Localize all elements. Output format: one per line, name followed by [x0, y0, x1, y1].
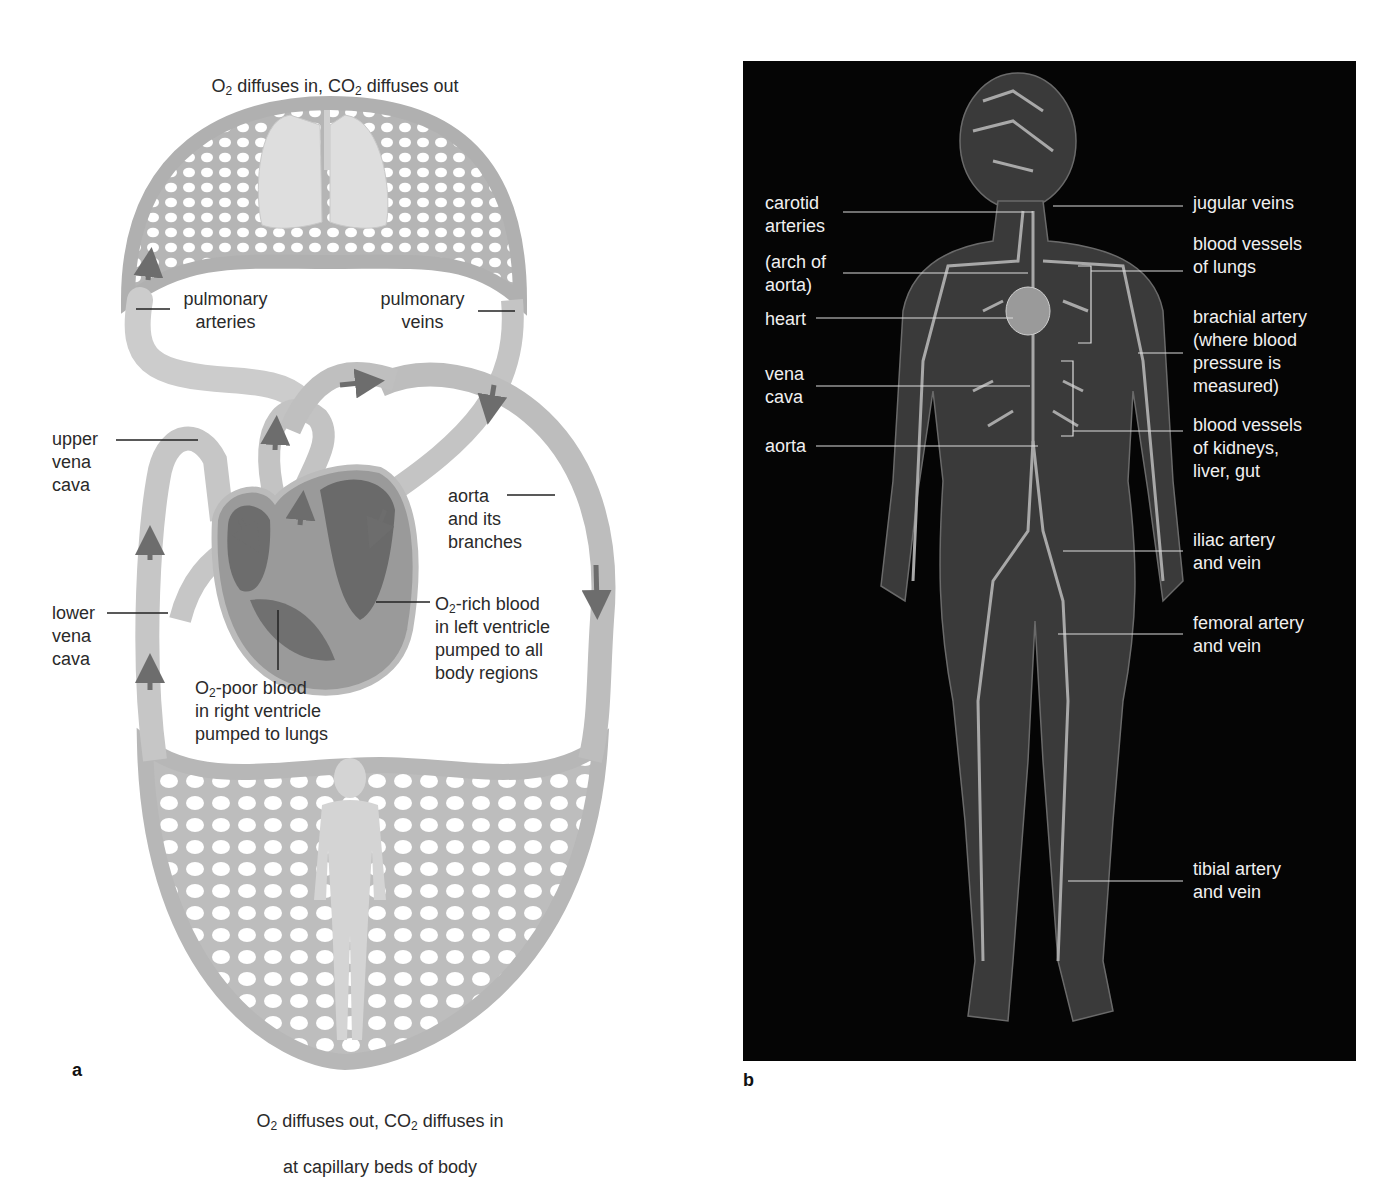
- label-carotid-arteries: carotid arteries: [765, 192, 825, 238]
- label-jugular-veins: jugular veins: [1193, 192, 1294, 215]
- heart-icon: [1006, 287, 1050, 335]
- panel-letter-b: b: [743, 1070, 754, 1091]
- label-pulmonary-arteries: pulmonary arteries: [168, 288, 283, 334]
- label-upper-vena-cava: upper vena cava: [52, 428, 98, 497]
- label-lower-vena-cava: lower vena cava: [52, 602, 95, 671]
- panel-letter-a: a: [72, 1060, 82, 1081]
- label-tibial-artery-vein: tibial artery and vein: [1193, 858, 1281, 904]
- label-iliac-artery-vein: iliac artery and vein: [1193, 529, 1275, 575]
- panel-b-human-vasculature: carotid arteries (arch of aorta) heart v…: [743, 61, 1356, 1061]
- body-capillary-caption: O2 diffuses out, CO2 diffuses in at capi…: [195, 1087, 545, 1181]
- label-femoral-artery-vein: femoral artery and vein: [1193, 612, 1304, 658]
- label-brachial-artery: brachial artery (where blood pressure is…: [1193, 306, 1307, 398]
- heart-cross-section: [215, 467, 416, 692]
- label-blood-vessels-kidneys-liver-gut: blood vessels of kidneys, liver, gut: [1193, 414, 1302, 483]
- label-aorta-branches: aorta and its branches: [448, 485, 522, 554]
- label-blood-vessels-lungs: blood vessels of lungs: [1193, 233, 1302, 279]
- label-aorta: aorta: [765, 435, 806, 458]
- label-pulmonary-veins: pulmonary veins: [365, 288, 480, 334]
- label-heart: heart: [765, 308, 806, 331]
- label-o2-poor-blood: O2-poor blood in right ventricle pumped …: [195, 677, 328, 746]
- body-capillary-bed: [145, 745, 600, 1062]
- label-o2-rich-blood: O2-rich blood in left ventricle pumped t…: [435, 593, 550, 685]
- label-vena-cava: vena cava: [765, 363, 804, 409]
- label-arch-of-aorta: (arch of aorta): [765, 251, 826, 297]
- lung-capillary-bed: [128, 103, 520, 300]
